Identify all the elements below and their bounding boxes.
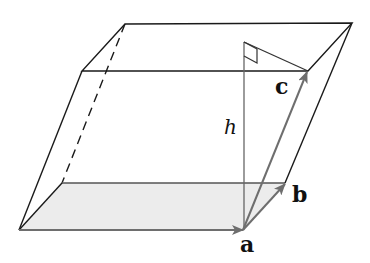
label-b: b xyxy=(292,181,307,207)
label-a: a xyxy=(240,231,254,257)
hidden-edge-vertical xyxy=(62,24,125,183)
label-c: c xyxy=(275,73,288,99)
right-angle-marker xyxy=(244,42,308,71)
right-angle-square xyxy=(244,49,257,63)
parallelepiped-diagram: a b c h xyxy=(0,0,370,263)
right-angle-top xyxy=(244,42,257,49)
label-h: h xyxy=(224,115,237,139)
